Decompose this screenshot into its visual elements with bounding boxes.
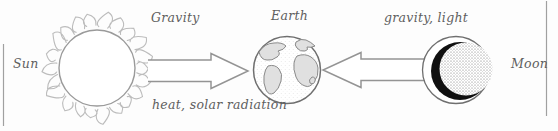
gravity-light-label: gravity, light (384, 12, 468, 25)
sun-earth-moon-diagram: Sun Gravity Earth gravity, light heat, s… (0, 0, 558, 131)
sun-label: Sun (13, 58, 39, 71)
moon-illustration (423, 37, 493, 104)
heat-solar-radiation-label: heat, solar radiation (152, 99, 287, 112)
moon-lit-surface (440, 43, 493, 96)
gravity-label: Gravity (151, 12, 200, 25)
arrow-sun-to-earth (148, 54, 248, 89)
arrow-moon-to-earth (323, 53, 432, 88)
sun-illustration (42, 12, 153, 124)
earth-label: Earth (271, 10, 308, 23)
earth-illustration (254, 37, 321, 104)
moon-label: Moon (511, 58, 548, 71)
